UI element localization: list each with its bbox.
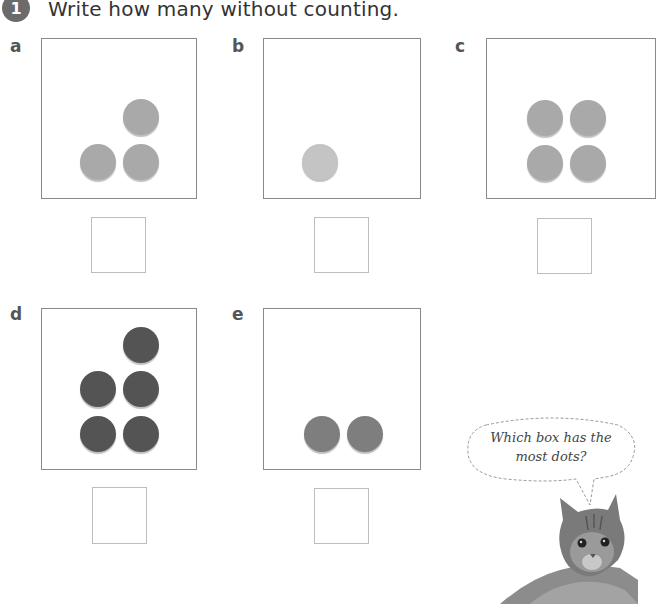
speech-line-2: most dots?	[466, 447, 636, 466]
dot	[123, 99, 159, 135]
dot	[123, 416, 159, 452]
item-c-answer-box[interactable]	[537, 218, 592, 274]
speech-line-1: Which box has the	[466, 428, 636, 447]
dot	[347, 416, 383, 452]
question-number: 1	[10, 0, 21, 18]
dot	[304, 416, 340, 452]
dot	[80, 371, 116, 407]
dot	[80, 416, 116, 452]
item-e-dot-box	[263, 308, 421, 470]
item-a-answer-box[interactable]	[91, 217, 146, 273]
dot	[570, 100, 606, 136]
item-a-dot-box	[41, 38, 197, 199]
item-a-label: a	[10, 36, 21, 56]
speech-bubble-text: Which box has the most dots?	[466, 428, 636, 466]
item-b-dot-box	[263, 38, 421, 199]
dot	[123, 327, 159, 363]
item-c-label: c	[455, 36, 465, 56]
dot	[123, 144, 159, 180]
item-b-label: b	[232, 36, 244, 56]
kitten-illustration	[490, 490, 638, 604]
item-e-answer-box[interactable]	[314, 488, 369, 544]
dot	[527, 100, 563, 136]
dot	[80, 144, 116, 180]
item-d-answer-box[interactable]	[92, 487, 147, 544]
instruction-text: Write how many without counting.	[48, 0, 399, 21]
dot	[302, 144, 338, 180]
item-d-label: d	[10, 304, 22, 324]
dot	[527, 145, 563, 181]
item-b-answer-box[interactable]	[314, 217, 369, 273]
item-e-label: e	[232, 304, 244, 324]
dot	[123, 371, 159, 407]
item-d-dot-box	[41, 308, 197, 470]
item-c-dot-box	[486, 38, 656, 199]
question-number-badge: 1	[2, 0, 30, 22]
dot	[570, 145, 606, 181]
